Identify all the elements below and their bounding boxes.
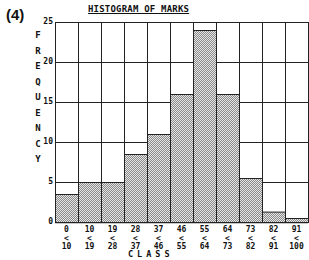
y-tick: 5 — [39, 177, 53, 186]
figure-label: (4) — [6, 6, 24, 23]
x-tick: 91<100 — [285, 226, 308, 252]
histogram-bar — [148, 135, 171, 223]
y-tick: 0 — [39, 217, 53, 226]
y-axis-letter: E — [33, 106, 43, 122]
histogram-bar — [240, 179, 263, 223]
x-tick: 0<10 — [55, 226, 78, 252]
y-tick: 10 — [39, 137, 53, 146]
histogram-bar — [102, 183, 125, 223]
y-axis-letter: Q — [33, 75, 43, 91]
histogram-bar — [56, 195, 79, 223]
x-tick: 55<64 — [193, 226, 216, 252]
x-tick: 46<55 — [170, 226, 193, 252]
x-tick: 37<46 — [147, 226, 170, 252]
x-tick: 10<19 — [78, 226, 101, 252]
y-tick: 15 — [39, 97, 53, 106]
y-tick: 20 — [39, 57, 53, 66]
histogram-bar — [286, 219, 309, 223]
x-tick: 28<37 — [124, 226, 147, 252]
x-tick: 82<91 — [262, 226, 285, 252]
y-axis-letter: Y — [33, 152, 43, 168]
y-axis-letter: F — [33, 28, 43, 44]
histogram-bar — [171, 95, 194, 223]
histogram-bar — [217, 95, 240, 223]
histogram-bar — [263, 212, 286, 222]
histogram-bar — [125, 155, 148, 223]
y-axis-letter: N — [33, 121, 43, 137]
chart-title: HISTOGRAM OF MARKS — [88, 4, 189, 14]
histogram-bar — [79, 183, 102, 223]
x-tick: 73<82 — [239, 226, 262, 252]
x-tick: 19<28 — [101, 226, 124, 252]
y-tick: 25 — [39, 17, 53, 26]
x-tick: 64<73 — [216, 226, 239, 252]
x-axis-label: CLASS — [128, 249, 174, 259]
histogram-plot — [55, 22, 309, 224]
histogram-bar — [194, 31, 217, 223]
